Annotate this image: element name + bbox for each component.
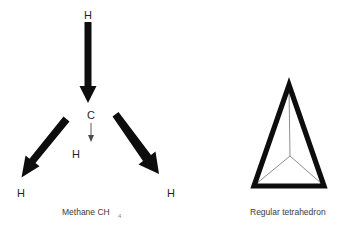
atom-label-h-right: H [167, 187, 175, 199]
atom-label-h-front: H [72, 148, 80, 160]
atom-label-c-center: C [87, 109, 95, 121]
methane-caption: Methane CH [62, 207, 110, 217]
atom-label-h-left: H [17, 187, 25, 199]
molecular-geometry-figure: H C H H H Methane CH 4 [0, 0, 350, 232]
tetrahedron-caption: Regular tetrahedron [250, 207, 326, 217]
atom-label-h-top: H [84, 9, 92, 21]
